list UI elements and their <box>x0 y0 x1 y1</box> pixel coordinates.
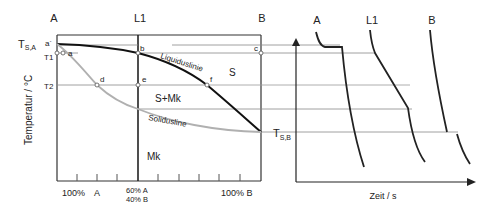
point-label-d: d <box>100 75 104 84</box>
column-label-a: A <box>50 12 58 24</box>
x-label-l1-line1: 60% A <box>126 186 148 195</box>
cooling-curves-axes <box>292 38 476 186</box>
phase-diagram: A L1 B TS,A T1 T2 TS,B Temperatur / °C a… <box>0 0 492 213</box>
cooling-curve-b <box>430 30 447 132</box>
point-label-a: a <box>68 49 73 58</box>
cooling-curve-a <box>316 32 364 167</box>
point-label-c: c <box>254 44 258 53</box>
tsa-label: TS,A <box>18 38 36 51</box>
cooling-curve-b-tail <box>457 134 470 164</box>
point-label-a-prime: a´ <box>45 39 52 48</box>
point-marker-c <box>259 51 263 55</box>
tsb-label: TS,B <box>273 127 291 141</box>
cooling-curves <box>316 30 470 167</box>
x-axis-arrow-icon <box>467 178 476 186</box>
solidus-label: Solidusline <box>148 113 188 129</box>
y-axis-label: Temperatur / °C <box>23 75 34 145</box>
region-liquid: S <box>229 67 236 78</box>
column-label-b: B <box>258 12 265 24</box>
cooling-label-b: B <box>428 14 435 26</box>
point-label-f: f <box>210 75 213 84</box>
t1-label: T1 <box>44 53 54 62</box>
t2-label: T2 <box>44 82 54 91</box>
region-two-phase: S+Mk <box>155 93 182 104</box>
point-label-e: e <box>142 75 147 84</box>
cooling-curve-l1 <box>370 30 425 162</box>
x-label-l1-line2: 40% B <box>126 195 148 204</box>
point-marker-d <box>95 83 99 87</box>
cooling-label-l1: L1 <box>366 14 378 26</box>
time-axis-label: Zeit / s <box>369 191 397 201</box>
point-marker-t1-left <box>55 51 59 55</box>
region-solid: Mk <box>147 151 161 162</box>
x-label-100-pct-b: 100% B <box>221 188 253 198</box>
point-marker-f <box>205 83 209 87</box>
point-label-b: b <box>140 44 145 53</box>
x-label-a: A <box>94 188 100 198</box>
y-axis-arrow-icon <box>292 38 300 46</box>
point-marker-e <box>136 83 140 87</box>
temperature-guide-lines <box>57 45 458 132</box>
x-label-100-pct: 100% <box>62 188 85 198</box>
column-label-l1: L1 <box>134 12 146 24</box>
cooling-label-a: A <box>313 14 321 26</box>
point-marker-a <box>61 51 65 55</box>
